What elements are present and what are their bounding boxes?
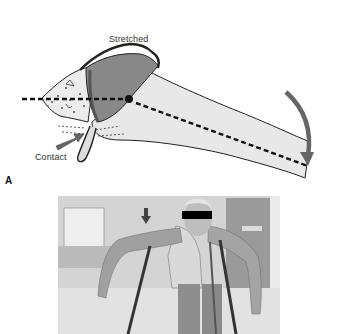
figure: Stretched Contact A — [0, 0, 337, 334]
contact-arrow-icon — [56, 134, 84, 150]
stretched-label: Stretched — [109, 34, 148, 44]
arrow-down-icon — [141, 208, 151, 224]
panel-label: A — [5, 175, 12, 186]
capsule-contact — [78, 126, 96, 162]
contact-label: Contact — [35, 152, 67, 162]
rotation-center — [125, 95, 133, 103]
censor-bar — [182, 211, 212, 219]
exercise-photo — [58, 196, 280, 334]
